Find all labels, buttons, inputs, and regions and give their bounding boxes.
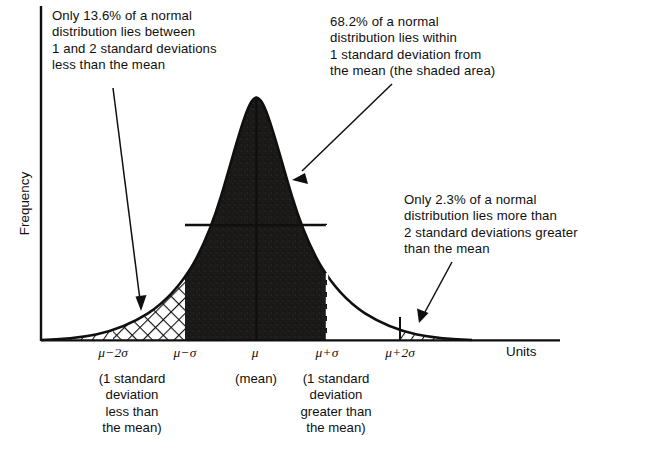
tick-sigma-glyph: 2σ xyxy=(401,345,414,360)
normal-distribution-figure: Only 13.6% of a normal distribution lies… xyxy=(0,0,653,454)
tick-operator xyxy=(258,345,260,360)
region-left-crosshatch xyxy=(113,90,185,341)
tick-sigma-glyph: σ xyxy=(190,345,197,360)
tick-mu-glyph: μ xyxy=(385,345,392,360)
tick-operator: − xyxy=(180,345,190,360)
leader-left xyxy=(113,88,140,300)
x-tick-label-minus-2-sigma: μ−2σ xyxy=(98,345,128,361)
tick-mu-glyph: μ xyxy=(252,345,259,360)
region-left-tail xyxy=(41,90,113,341)
tick-sigma-glyph: σ xyxy=(332,345,339,360)
tick-sigma-glyph: 2σ xyxy=(114,345,127,360)
arrowhead-left xyxy=(136,295,147,311)
x-tick-label-plus-1-sigma: μ+σ xyxy=(316,345,339,361)
tick-operator: + xyxy=(392,345,402,360)
subcaption-one-sd-greater-than-mean: (1 standard deviation greater than the m… xyxy=(269,371,404,437)
x-tick-label-mu: μ xyxy=(252,345,261,361)
arrowhead-right xyxy=(417,309,429,324)
y-axis-title: Frequency xyxy=(17,159,32,249)
x-axis-title: Units xyxy=(506,344,537,359)
x-tick-label-minus-1-sigma: μ−σ xyxy=(174,345,197,361)
tick-mu-glyph: μ xyxy=(174,345,181,360)
annotation-top-68-2-percent: 68.2% of a normal distribution lies with… xyxy=(330,14,570,80)
tick-operator: + xyxy=(322,345,332,360)
leader-right xyxy=(425,262,452,312)
subcaption-one-sd-less-than-mean: (1 standard deviation less than the mean… xyxy=(67,371,197,437)
leader-top xyxy=(302,84,392,171)
x-tick-label-plus-2-sigma: μ+2σ xyxy=(385,345,415,361)
annotation-right-2-3-percent: Only 2.3% of a normal distribution lies … xyxy=(404,192,644,258)
tick-mu-glyph: μ xyxy=(316,345,323,360)
arrowhead-top xyxy=(292,173,308,184)
tick-mu-glyph: μ xyxy=(98,345,105,360)
annotation-left-13-6-percent: Only 13.6% of a normal distribution lies… xyxy=(52,8,302,74)
tick-operator: − xyxy=(105,345,115,360)
